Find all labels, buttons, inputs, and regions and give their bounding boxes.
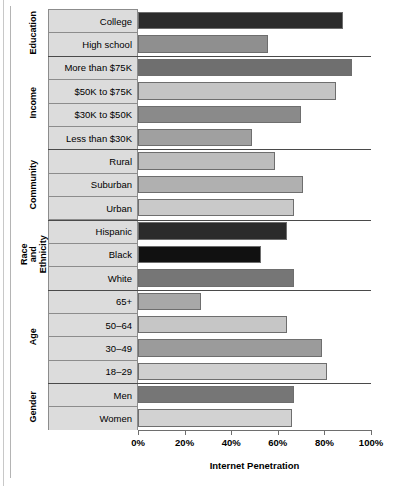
x-tick-label: 80% [315,437,334,448]
chart-row: College [48,9,371,32]
bar [138,129,252,146]
category-label: Black [48,243,138,266]
group-separator [48,220,371,221]
x-tick-label: 60% [268,437,287,448]
bar [138,106,301,123]
bar-track [138,360,371,383]
group-label: Race and Ethnicity [22,220,46,290]
chart-row: Black [48,243,371,266]
group-label-text: Race and Ethnicity [20,236,48,274]
group-label-text: Age [29,328,38,345]
chart-row: 30–49 [48,336,371,359]
category-label: Less than $30K [48,126,138,149]
x-tick [231,430,232,435]
chart-row: 18–29 [48,360,371,383]
group-label-text: Community [29,160,38,210]
group-label: Income [22,56,46,150]
group-label: Community [22,149,46,219]
x-tick [324,430,325,435]
bar [138,12,343,29]
chart-row: Less than $30K [48,126,371,149]
x-tick-label: 20% [175,437,194,448]
category-label: White [48,266,138,289]
chart-row: Hispanic [48,219,371,242]
chart-row: Men [48,383,371,406]
x-tick-label: 0% [131,437,145,448]
category-label: Suburban [48,173,138,196]
category-label: More than $75K [48,56,138,79]
bar-track [138,32,371,55]
chart-row: 50–64 [48,313,371,336]
group-label: Gender [22,383,46,430]
chart-row: $30K to $50K [48,103,371,126]
bar [138,176,303,193]
bar-track [138,336,371,359]
bar [138,386,294,403]
bar-track [138,266,371,289]
bar [138,246,261,263]
group-label-text: Income [29,87,38,119]
bar-track [138,103,371,126]
bar-track [138,9,371,32]
category-label: 65+ [48,290,138,313]
bar [138,59,352,76]
group-separator [48,56,371,57]
bar [138,222,287,239]
bar [138,152,275,169]
page-inner-edge-line [10,6,11,478]
bar [138,339,322,356]
bar [138,35,268,52]
group-label: Education [22,9,46,56]
bar-track [138,313,371,336]
bar-track [138,406,371,429]
x-tick [138,430,139,435]
x-axis: 0%20%40%60%80%100% [138,430,371,431]
x-tick [185,430,186,435]
bar-track [138,79,371,102]
category-label: High school [48,32,138,55]
bar [138,316,287,333]
bar-track [138,383,371,406]
group-label-text: Gender [29,391,38,423]
x-tick-label: 40% [222,437,241,448]
bar-track [138,243,371,266]
x-tick [371,430,372,435]
category-label: Men [48,383,138,406]
chart-row: Urban [48,196,371,219]
plot-area: CollegeHigh schoolMore than $75K$50K to … [48,9,371,430]
bar [138,269,294,286]
bar-track [138,149,371,172]
category-label: 30–49 [48,336,138,359]
x-tick [278,430,279,435]
bar [138,82,336,99]
page-edge-line [3,0,4,486]
category-label: $50K to $75K [48,79,138,102]
category-label: Urban [48,196,138,219]
group-label-text: Education [29,11,38,55]
category-label: 50–64 [48,313,138,336]
bar [138,199,294,216]
category-label: College [48,9,138,32]
chart-row: White [48,266,371,289]
chart-row: $50K to $75K [48,79,371,102]
category-label: 18–29 [48,360,138,383]
bar-track [138,173,371,196]
category-label: Women [48,406,138,429]
category-label: Hispanic [48,219,138,242]
chart-figure: CollegeHigh schoolMore than $75K$50K to … [0,0,393,486]
bar-track [138,219,371,242]
group-separator [48,290,371,291]
bar-track [138,290,371,313]
group-label: Age [22,290,46,384]
chart-row: Women [48,406,371,429]
bar-track [138,196,371,219]
chart-row: Rural [48,149,371,172]
chart-row: More than $75K [48,56,371,79]
bar-track [138,56,371,79]
category-label: Rural [48,149,138,172]
bar [138,409,292,426]
group-separator [48,149,371,150]
x-tick-label: 100% [359,437,383,448]
chart-row: Suburban [48,173,371,196]
bar-track [138,126,371,149]
